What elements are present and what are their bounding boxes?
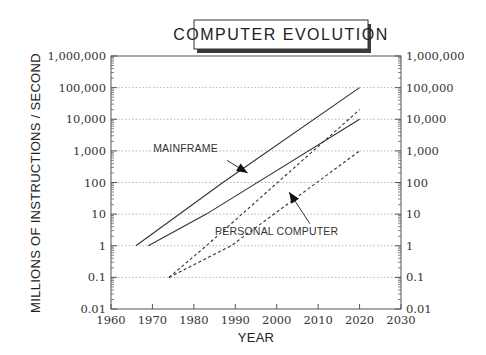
y-tick-label-right: 100 (406, 176, 428, 190)
x-tick-label: 2010 (304, 313, 333, 327)
series-line-mainframe-high (136, 88, 360, 246)
chart-title-box: COMPUTER EVOLUTION (173, 20, 388, 53)
y-tick-label: 0.1 (88, 270, 106, 284)
series-line-personal-computer-low (169, 151, 360, 278)
y-tick-label-right: 0.01 (406, 302, 432, 316)
y-tick-label-right: 1,000 (406, 144, 439, 158)
y-axis-title: MILLIONS OF INSTRUCTIONS / SECOND (28, 53, 43, 313)
x-tick-label: 2000 (262, 313, 291, 327)
y-tick-label-right: 0.1 (406, 270, 424, 284)
annotation-label-personal-computer: PERSONAL COMPUTER (215, 225, 338, 237)
x-tick-label: 1990 (221, 313, 250, 327)
y-tick-label: 1,000 (73, 144, 106, 158)
x-tick-label: 1980 (179, 313, 208, 327)
chart: COMPUTER EVOLUTION 196019701980199020002… (0, 0, 486, 355)
y-tick-label: 10,000 (66, 112, 106, 126)
y-tick-label-right: 10 (406, 207, 421, 221)
y-tick-label-right: 1 (406, 239, 413, 253)
y-tick-label-right: 10,000 (406, 112, 446, 126)
y-tick-label-right: 1,000,000 (406, 49, 465, 63)
y-tick-label: 100 (84, 176, 106, 190)
x-axis-title: YEAR (238, 330, 275, 345)
minor-ticks (111, 57, 401, 299)
y-axis-right: 0.010.11101001,00010,000100,0001,000,000 (395, 49, 465, 316)
y-tick-label: 10 (91, 207, 106, 221)
y-tick-label: 100,000 (58, 81, 106, 95)
chart-title: COMPUTER EVOLUTION (173, 26, 388, 43)
y-axis-left: 0.010.11101001,00010,000100,0001,000,000 (47, 49, 117, 316)
annotation-label-mainframe: MAINFRAME (153, 142, 218, 154)
gridlines (111, 88, 401, 278)
x-tick-label: 1970 (138, 313, 167, 327)
y-tick-label: 0.01 (80, 302, 106, 316)
y-tick-label: 1 (99, 239, 106, 253)
y-tick-label: 1,000,000 (47, 49, 106, 63)
y-tick-label-right: 100,000 (406, 81, 454, 95)
series-line-personal-computer-high (169, 110, 360, 278)
x-tick-label: 2020 (345, 313, 374, 327)
x-axis: 19601970198019902000201020202030 (96, 304, 415, 327)
